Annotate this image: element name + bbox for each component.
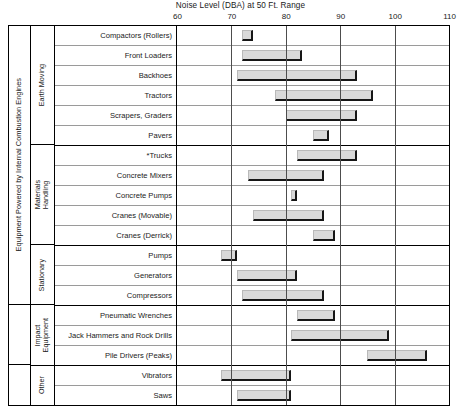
range-bar <box>221 370 292 381</box>
range-bar <box>237 270 297 281</box>
range-bar <box>253 210 324 221</box>
group-earth-moving: Earth Moving <box>31 26 54 144</box>
plot-row <box>177 225 449 245</box>
range-bar <box>237 70 357 81</box>
range-bar <box>297 150 357 161</box>
plot-row <box>177 85 449 105</box>
x-tick-70: 70 <box>227 12 236 21</box>
category-label: Saws <box>55 385 176 405</box>
group-label: Other <box>38 376 46 394</box>
plot-row <box>177 185 449 205</box>
range-bar <box>313 130 329 141</box>
group-materials-handling: Materials Handling <box>31 144 54 244</box>
group-other: Other <box>31 365 54 405</box>
group-impact-equipment: Impact Equipment <box>31 304 54 364</box>
plot-row <box>177 245 449 265</box>
group-label: Earth Moving <box>38 64 46 106</box>
chart-frame: Equipment Powered by Internal Combustion… <box>8 25 450 406</box>
mega-group-2 <box>9 304 30 365</box>
group-label-column: Earth MovingMaterials HandlingStationary… <box>31 26 55 405</box>
x-tick-80: 80 <box>282 12 291 21</box>
range-bar <box>297 310 335 321</box>
group-label: Stationary <box>38 259 46 291</box>
plot-row <box>177 165 449 185</box>
chart-title-text: Noise Level (DBA) at 50 Ft. Range <box>176 1 305 10</box>
plot-row <box>177 365 449 385</box>
plot-row <box>177 285 449 305</box>
category-label-column: Compactors (Rollers)Front LoadersBackhoe… <box>55 26 177 405</box>
category-label: Pavers <box>55 125 176 145</box>
range-bar <box>286 110 357 121</box>
plot-row <box>177 325 449 345</box>
range-bar <box>291 190 296 201</box>
group-stationary: Stationary <box>31 244 54 304</box>
range-bar <box>221 250 237 261</box>
category-label: Concrete Pumps <box>55 185 176 205</box>
x-tick-60: 60 <box>173 12 182 21</box>
x-tick-110: 110 <box>443 12 456 21</box>
category-label: Pumps <box>55 245 176 265</box>
range-bar <box>367 350 427 361</box>
plot-row <box>177 26 449 45</box>
group-label: Impact Equipment <box>34 318 51 352</box>
plot-row <box>177 105 449 125</box>
mega-group-1: Equipment Powered by Internal Combustion… <box>9 26 30 304</box>
category-label: Vibrators <box>55 365 176 385</box>
plot-row <box>177 145 449 165</box>
plot-row <box>177 125 449 145</box>
range-bar <box>242 30 253 41</box>
range-bar <box>313 230 335 241</box>
category-label: *Trucks <box>55 145 176 165</box>
category-label: Pneumatic Wrenches <box>55 305 176 325</box>
x-tick-90: 90 <box>336 12 345 21</box>
plot-area <box>177 26 449 405</box>
plot-row <box>177 45 449 65</box>
range-bar <box>242 50 302 61</box>
category-label: Cranes (Movable) <box>55 205 176 225</box>
category-label: Scrapers, Graders <box>55 105 176 125</box>
category-label: Jack Hammers and Rock Drills <box>55 325 176 345</box>
category-label: Generators <box>55 265 176 285</box>
range-bar <box>275 90 373 101</box>
plot-row <box>177 385 449 405</box>
plot-row <box>177 305 449 325</box>
chart-title: Noise Level (DBA) at 50 Ft. Range <box>0 1 459 10</box>
range-bar <box>291 330 389 341</box>
noise-level-chart: Noise Level (DBA) at 50 Ft. Range 607080… <box>0 0 459 409</box>
x-tick-100: 100 <box>388 12 401 21</box>
category-label: Compactors (Rollers) <box>55 26 176 45</box>
category-label: Pile Drivers (Peaks) <box>55 345 176 365</box>
category-label: Tractors <box>55 85 176 105</box>
mega-group-3 <box>9 364 30 405</box>
category-label: Concrete Mixers <box>55 165 176 185</box>
plot-row <box>177 65 449 85</box>
range-bar <box>237 390 291 401</box>
range-bar <box>248 170 324 181</box>
mega-group-column: Equipment Powered by Internal Combustion… <box>9 26 31 405</box>
plot-row <box>177 265 449 285</box>
group-label: Materials Handling <box>34 180 51 209</box>
category-label: Backhoes <box>55 65 176 85</box>
x-axis-tick-labels: 60708090100110 <box>0 12 459 23</box>
category-label: Cranes (Derrick) <box>55 225 176 245</box>
range-bar <box>242 290 324 301</box>
category-label: Front Loaders <box>55 45 176 65</box>
category-label: Compressors <box>55 285 176 305</box>
plot-row <box>177 345 449 365</box>
mega-group-label: Equipment Powered by Internal Combustion… <box>15 78 24 251</box>
plot-row <box>177 205 449 225</box>
